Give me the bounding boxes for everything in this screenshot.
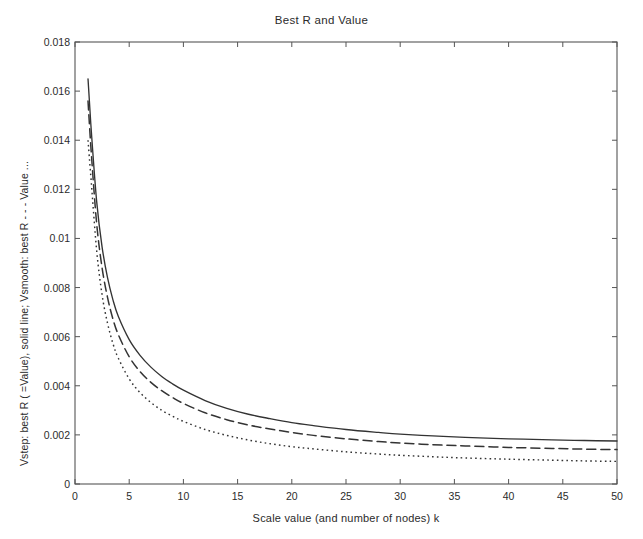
plot-area: [0, 0, 643, 539]
x-tick-label: 50: [597, 490, 637, 502]
y-tick-label: 0.004: [24, 380, 70, 392]
series-line-dashed: [88, 101, 617, 450]
series-line-dotted: [88, 140, 617, 461]
x-tick-label: 20: [272, 490, 312, 502]
x-tick-label: 40: [489, 490, 529, 502]
y-tick-label: 0.016: [24, 85, 70, 97]
axis-ticks: [75, 42, 617, 484]
x-tick-label: 35: [434, 490, 474, 502]
y-tick-label: 0.002: [24, 429, 70, 441]
y-tick-label: 0.018: [24, 36, 70, 48]
x-tick-label: 45: [543, 490, 583, 502]
axes-frame: [75, 42, 617, 484]
y-tick-label: 0.01: [24, 232, 70, 244]
y-tick-label: 0.014: [24, 134, 70, 146]
x-axis-label: Scale value (and number of nodes) k: [75, 512, 617, 524]
data-series-group: [88, 79, 617, 462]
x-tick-label: 30: [380, 490, 420, 502]
figure-container: Best R and Value Vstep: best R ( =Value)…: [0, 0, 643, 539]
y-tick-label: 0.012: [24, 183, 70, 195]
series-line-solid: [88, 79, 617, 441]
y-axis-tick-labels: 00.0020.0040.0060.0080.010.0120.0140.016…: [22, 0, 70, 539]
x-tick-label: 15: [218, 490, 258, 502]
y-tick-label: 0: [24, 478, 70, 490]
y-tick-label: 0.006: [24, 331, 70, 343]
x-tick-label: 5: [109, 490, 149, 502]
x-tick-label: 10: [163, 490, 203, 502]
x-tick-label: 25: [326, 490, 366, 502]
y-tick-label: 0.008: [24, 282, 70, 294]
chart-title: Best R and Value: [0, 14, 643, 26]
x-tick-label: 0: [55, 490, 95, 502]
